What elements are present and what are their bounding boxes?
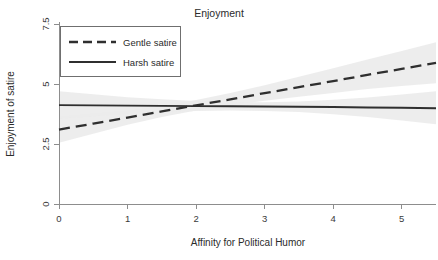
legend-label-harsh-satire: Harsh satire	[123, 57, 174, 68]
x-tick-label: 4	[331, 213, 336, 224]
y-tick-label: 2.5	[40, 137, 51, 150]
x-tick-label: 2	[193, 213, 198, 224]
legend-label-gentle-satire: Gentle satire	[123, 37, 177, 48]
chart-title: Enjoyment	[194, 7, 244, 19]
y-tick-label: 5	[40, 81, 51, 86]
legend-border	[60, 26, 180, 76]
x-tick-label: 0	[56, 213, 61, 224]
enjoyment-line-chart: Enjoyment 02.557.5 012345 Affinity for P…	[0, 0, 438, 260]
x-axis-title: Affinity for Political Humor	[191, 237, 306, 248]
y-axis-title: Enjoyment of satire	[5, 71, 16, 157]
y-tick-label: 7.5	[40, 17, 51, 30]
chart-legend: Gentle satireHarsh satire	[60, 26, 180, 76]
x-tick-label: 5	[399, 213, 404, 224]
x-tick-label: 1	[125, 213, 130, 224]
chart-figure: Enjoyment 02.557.5 012345 Affinity for P…	[0, 0, 438, 260]
y-tick-label: 0	[40, 201, 51, 206]
x-tick-label: 3	[262, 213, 267, 224]
